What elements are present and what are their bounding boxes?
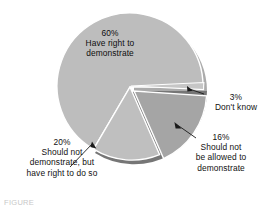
pie-label-should-not-be-allowed: 16% Should not be allowed to demonstrate xyxy=(178,132,264,173)
pie-label-line-2: be allowed to xyxy=(178,152,264,162)
pie-label-percent-60: 60% xyxy=(62,28,158,38)
pie-label-line-2: demonstrate xyxy=(62,48,158,58)
pie-chart-figure: 60% Have right to demonstrate 3% Don't k… xyxy=(0,0,268,206)
pie-label-have-right-to-demonstrate: 60% Have right to demonstrate xyxy=(62,28,158,59)
pie-label-percent-20: 20% xyxy=(2,137,122,147)
pie-label-line-1: Don't know xyxy=(205,102,267,112)
pie-label-should-not-demonstrate: 20% Should not demonstrate, but have rig… xyxy=(2,137,122,178)
pie-label-percent-16: 16% xyxy=(178,132,264,142)
pie-label-line-1: Should not xyxy=(2,147,122,157)
pie-label-percent-3: 3% xyxy=(205,92,267,102)
pie-label-line-2: demonstrate, but xyxy=(2,157,122,167)
figure-caption-clipped: FIGURE xyxy=(4,199,124,205)
pie-label-line-3: demonstrate xyxy=(178,163,264,173)
pie-label-line-1: Have right to xyxy=(62,38,158,48)
pie-label-line-3: have right to do so xyxy=(2,168,122,178)
pie-label-dont-know: 3% Don't know xyxy=(205,92,267,112)
pie-label-line-1: Should not xyxy=(178,142,264,152)
